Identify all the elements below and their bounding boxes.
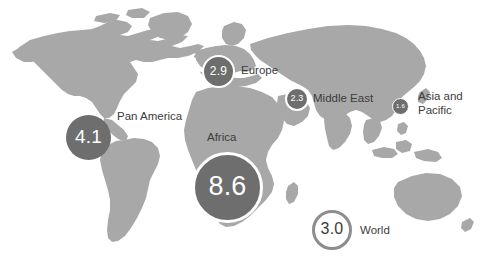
bubble-asia-pacific[interactable]: 1.6 xyxy=(392,98,409,115)
south-america-shape xyxy=(100,138,160,242)
scandinavia-shape xyxy=(222,22,246,46)
bubble-value-pan-america: 4.1 xyxy=(75,127,102,146)
bubble-africa[interactable]: 8.6 xyxy=(192,152,263,223)
bubble-world-map: 4.1 2.9 2.3 1.6 8.6 3.0 Pan America Euro… xyxy=(0,0,482,269)
label-middle-east: Middle East xyxy=(313,92,373,106)
arctic-island-2-shape xyxy=(126,8,150,18)
indonesia-shape xyxy=(372,147,398,158)
new-zealand-shape xyxy=(461,218,474,232)
madagascar-shape xyxy=(286,182,298,204)
label-pan-america: Pan America xyxy=(117,110,182,124)
australia-shape xyxy=(394,173,462,221)
bubble-value-asia-pacific: 1.6 xyxy=(396,103,405,109)
borneo-shape xyxy=(396,140,412,153)
new-guinea-shape xyxy=(414,149,442,162)
bubble-value-africa: 8.6 xyxy=(208,173,246,200)
bubble-value-europe: 2.9 xyxy=(210,65,227,77)
label-asia-pacific: Asia and Pacific xyxy=(418,90,463,117)
bubble-pan-america[interactable]: 4.1 xyxy=(66,115,111,160)
bubble-value-middle-east: 2.3 xyxy=(290,94,303,103)
label-africa: Africa xyxy=(207,131,236,145)
label-europe: Europe xyxy=(241,64,278,78)
bubble-middle-east[interactable]: 2.3 xyxy=(285,87,309,111)
india-shape xyxy=(324,110,352,150)
bubble-value-world: 3.0 xyxy=(321,221,344,237)
bubble-world[interactable]: 3.0 xyxy=(312,210,352,250)
philippines-shape xyxy=(397,122,408,135)
southeast-asia-shape xyxy=(363,118,382,144)
bubble-europe[interactable]: 2.9 xyxy=(202,55,235,88)
label-world: World xyxy=(360,224,390,238)
